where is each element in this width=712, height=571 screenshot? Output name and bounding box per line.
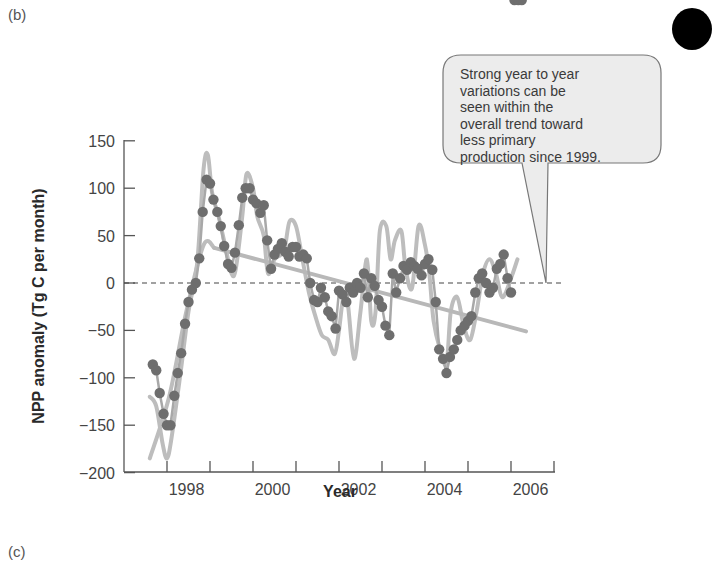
data-point (283, 251, 293, 261)
data-point (423, 254, 433, 264)
data-point (208, 194, 218, 204)
data-point (316, 283, 326, 293)
data-point (230, 247, 240, 257)
data-point (165, 420, 175, 430)
data-point (384, 330, 394, 340)
y-tick-label: −150 (79, 417, 115, 434)
data-point (391, 287, 401, 297)
data-point (205, 178, 215, 188)
y-tick-label: 50 (97, 228, 115, 245)
y-tick-label: −50 (88, 322, 115, 339)
data-point (498, 249, 508, 259)
data-point (244, 183, 254, 193)
data-point (320, 292, 330, 302)
callout-text-line: variations can be (460, 83, 566, 99)
data-point (488, 283, 498, 293)
data-point (259, 200, 269, 210)
data-point (441, 368, 451, 378)
data-point (183, 297, 193, 307)
y-tick-label: 100 (88, 180, 115, 197)
data-point (341, 297, 351, 307)
data-point (180, 319, 190, 329)
data-point (262, 235, 272, 245)
data-point (173, 368, 183, 378)
data-point (151, 365, 161, 375)
data-point (169, 391, 179, 401)
data-point (434, 344, 444, 354)
data-point (197, 207, 207, 217)
data-point (502, 273, 512, 283)
axes: 150100500−50−100−150−2001998200020022004… (79, 133, 563, 498)
data-point (355, 283, 365, 293)
data-point (194, 253, 204, 263)
data-point (330, 323, 340, 333)
data-point (266, 264, 276, 274)
data-point (477, 268, 487, 278)
data-point (291, 242, 301, 252)
data-point (431, 297, 441, 307)
data-point (326, 311, 336, 321)
data-point (212, 207, 222, 217)
callout-bubble: Strong year to yearvariations can beseen… (443, 55, 661, 283)
data-point (363, 292, 373, 302)
data-point (506, 287, 516, 297)
data-point (237, 192, 247, 202)
y-tick-label: −200 (79, 465, 115, 482)
data-point (369, 281, 379, 291)
x-tick-label: 2006 (513, 481, 549, 498)
data-point (216, 221, 226, 231)
data-point (427, 265, 437, 275)
callout-text-line: overall trend toward (460, 116, 583, 132)
data-point (470, 287, 480, 297)
data-point (226, 263, 236, 273)
data-point (495, 259, 505, 269)
data-point (158, 409, 168, 419)
x-axis-title: Year (323, 483, 357, 500)
data-point (302, 253, 312, 263)
data-point (449, 344, 459, 354)
y-tick-label: 0 (106, 275, 115, 292)
data-point (380, 320, 390, 330)
x-tick-label: 2000 (255, 481, 291, 498)
data-point (377, 302, 387, 312)
data-point (191, 278, 201, 288)
y-tick-label: −100 (79, 370, 115, 387)
callout-text-line: seen within the (460, 99, 554, 115)
y-tick-label: 150 (88, 133, 115, 150)
data-point (305, 278, 315, 288)
data-point (234, 220, 244, 230)
data-point (452, 335, 462, 345)
data-point (176, 348, 186, 358)
data-point (416, 270, 426, 280)
callout-text-line: production since 1999. (460, 149, 601, 165)
data-point (154, 388, 164, 398)
data-point (219, 241, 229, 251)
x-tick-label: 2004 (427, 481, 463, 498)
callout-text-line: Strong year to year (460, 66, 579, 82)
callout-text-line: less primary (460, 132, 535, 148)
y-axis-title: NPP anomaly (Tg C per month) (30, 188, 47, 423)
data-point (466, 311, 476, 321)
data-point (395, 273, 405, 283)
x-tick-label: 1998 (169, 481, 205, 498)
